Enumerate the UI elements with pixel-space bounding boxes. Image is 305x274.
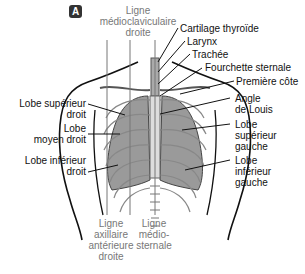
label-trachee: Trachée bbox=[192, 49, 228, 60]
label-cartilage-thyroide: Cartilage thyroïde bbox=[180, 23, 259, 34]
label-line: supérieur bbox=[235, 130, 277, 141]
label-lobe-moyen-droit: Lobe moyen droit bbox=[4, 123, 86, 145]
label-line: médioclaviculaire bbox=[93, 16, 183, 27]
label-line: inférieur bbox=[235, 166, 271, 177]
label-line: droite bbox=[93, 27, 183, 38]
label-line: Ligne bbox=[93, 5, 183, 16]
label-ligne-medioclaviculaire-droite: Ligne médioclaviculaire droite bbox=[93, 5, 183, 38]
label-line: Lobe inférieur bbox=[4, 155, 86, 166]
figure-badge: A bbox=[69, 5, 82, 18]
label-line: Angle bbox=[235, 93, 273, 104]
label-line: Ligne bbox=[134, 218, 174, 229]
label-line: droit bbox=[4, 166, 86, 177]
label-lobe-superieur-droit: Lobe supérieur droit bbox=[4, 98, 86, 120]
label-lobe-superieur-gauche: Lobe supérieur gauche bbox=[235, 119, 277, 152]
label-line: droite bbox=[86, 251, 136, 262]
label-ligne-mediosternale: Ligne médio- sternale bbox=[134, 218, 174, 251]
label-line: gauche bbox=[235, 177, 271, 188]
label-line: de Louis bbox=[235, 104, 273, 115]
label-fourchette-sternale: Fourchette sternale bbox=[205, 62, 291, 73]
label-line: médio- bbox=[134, 229, 174, 240]
label-line: Lobe bbox=[235, 119, 277, 130]
label-larynx: Larynx bbox=[187, 36, 217, 47]
label-lobe-inferieur-droit: Lobe inférieur droit bbox=[4, 155, 86, 177]
label-line: sternale bbox=[134, 240, 174, 251]
label-angle-de-louis: Angle de Louis bbox=[235, 93, 273, 115]
label-line: moyen droit bbox=[4, 134, 86, 145]
label-ligne-axillaire-anterieure-droite: Ligne axillaire antérieure droite bbox=[86, 218, 136, 262]
label-line: droit bbox=[4, 109, 86, 120]
label-line: Ligne bbox=[86, 218, 136, 229]
label-line: Lobe bbox=[235, 155, 271, 166]
label-line: antérieure bbox=[86, 240, 136, 251]
label-line: Lobe supérieur bbox=[4, 98, 86, 109]
label-premiere-cote: Première côte bbox=[236, 76, 298, 87]
label-lobe-inferieur-gauche: Lobe inférieur gauche bbox=[235, 155, 271, 188]
label-line: axillaire bbox=[86, 229, 136, 240]
label-line: gauche bbox=[235, 141, 277, 152]
label-line: Lobe bbox=[4, 123, 86, 134]
